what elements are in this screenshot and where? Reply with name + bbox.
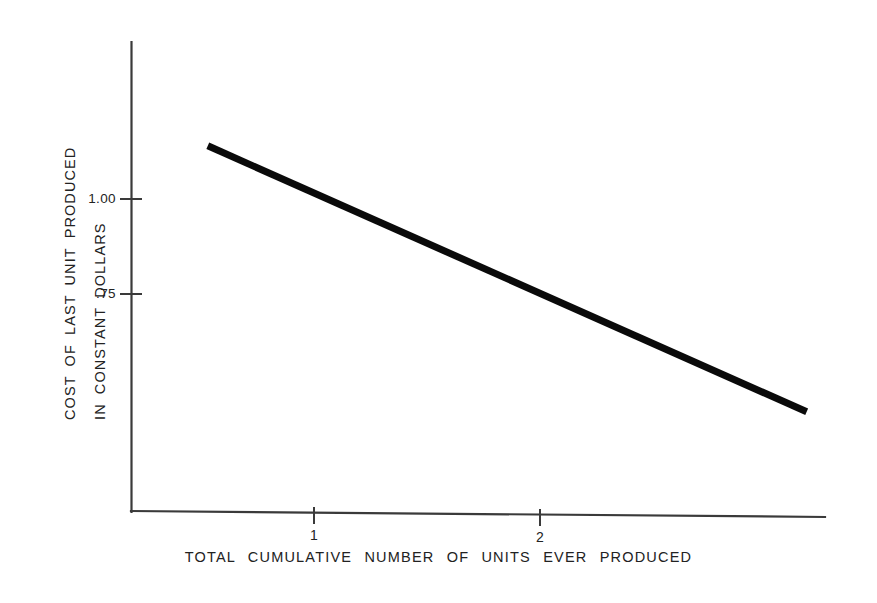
y-tick-label-0-75: .75 — [60, 286, 116, 301]
x-axis-title: TOTAL CUMULATIVE NUMBER OF UNITS EVER PR… — [0, 549, 877, 565]
data-series-learning-curve — [208, 146, 807, 412]
y-tick-label-1-00: 1.00 — [60, 191, 116, 206]
chart-figure: 1.00 .75 1 2 COST OF LAST UNIT PRODUCED … — [0, 0, 877, 603]
x-tick-label-1: 1 — [294, 527, 334, 543]
chart-plot-area — [0, 0, 877, 603]
x-tick-label-2: 2 — [520, 529, 560, 545]
x-axis-line — [131, 511, 825, 517]
